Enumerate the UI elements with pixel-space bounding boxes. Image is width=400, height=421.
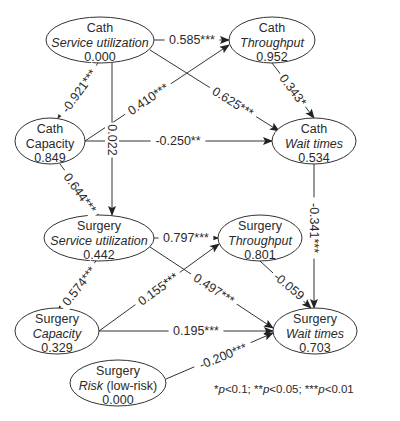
node-group: Cath <box>259 21 285 35</box>
node-group: Surgery <box>77 219 122 233</box>
svg-text:0.585***: 0.585*** <box>169 33 215 47</box>
node-surg-wait: SurgeryWait times0.703 <box>273 308 357 355</box>
node-group: Cath <box>37 122 63 136</box>
edge-label: 0.022 <box>105 123 119 158</box>
edge-label: 0.410*** <box>121 78 174 120</box>
svg-text:0.625***: 0.625*** <box>210 84 256 120</box>
node-cath-util: CathService utilization0.000 <box>46 17 154 64</box>
svg-text:0.797***: 0.797*** <box>163 231 209 245</box>
node-group: Surgery <box>96 364 141 378</box>
node-group: Surgery <box>293 312 338 326</box>
node-name: Wait times <box>286 327 344 341</box>
node-surg-risk: SurgeryRisk (low-risk)0.000 <box>70 360 166 407</box>
svg-text:-0.341***: -0.341*** <box>307 203 321 253</box>
svg-text:-0.200***: -0.200*** <box>197 340 249 372</box>
node-name: Throughput <box>228 234 292 248</box>
node-value: 0.952 <box>256 50 287 64</box>
edge-label: 0.644*** <box>58 167 102 220</box>
svg-text:-0.059: -0.059 <box>271 269 307 303</box>
node-value: 0.703 <box>299 341 330 355</box>
svg-text:-0.250**: -0.250** <box>155 134 200 148</box>
node-value: 0.329 <box>41 341 72 355</box>
node-value: 0.000 <box>84 50 115 64</box>
node-name: Capacity <box>33 327 82 341</box>
node-surg-cap: SurgeryCapacity0.329 <box>15 308 99 355</box>
edge-label: 0.797*** <box>159 231 214 245</box>
node-group: Surgery <box>238 219 283 233</box>
node-cath-cap: CathCapacity0.849 <box>15 118 85 165</box>
node-name: Service utilization <box>50 234 147 248</box>
node-group: Surgery <box>35 312 80 326</box>
svg-text:0.343*: 0.343* <box>276 72 309 109</box>
edge-label: 0.195*** <box>169 324 224 338</box>
edge-label: -0.250** <box>151 134 206 148</box>
svg-text:0.574***: 0.574*** <box>60 264 99 309</box>
node-name: Capacity <box>26 137 75 151</box>
svg-text:0.022: 0.022 <box>105 124 119 155</box>
node-value: 0.534 <box>298 151 329 165</box>
node-group: Cath <box>87 21 113 35</box>
node-name: Service utilization <box>51 36 148 50</box>
nodes-layer: CathService utilization0.000CathThroughp… <box>15 17 357 407</box>
svg-text:0.644***: 0.644*** <box>61 171 99 216</box>
node-cath-thru: CathThroughput0.952 <box>229 17 315 64</box>
node-value: 0.442 <box>83 248 114 262</box>
edge-label: 0.574*** <box>57 260 102 312</box>
edge-label: 0.497*** <box>187 268 241 310</box>
svg-text:0.195***: 0.195*** <box>173 324 219 338</box>
node-name: Wait times <box>285 137 343 151</box>
edge-label: -0.059 <box>268 267 309 305</box>
edge-label: 0.343* <box>275 69 311 111</box>
node-value: 0.801 <box>244 248 275 262</box>
svg-text:0.155***: 0.155*** <box>136 270 181 308</box>
node-group: Cath <box>301 122 327 136</box>
node-name: Risk (low-risk) <box>79 379 157 393</box>
node-value: 0.000 <box>102 393 133 407</box>
path-diagram: CathService utilization0.000CathThroughp… <box>0 0 400 421</box>
edge-label: -0.341*** <box>307 197 321 258</box>
edge-label: 0.585*** <box>165 33 220 47</box>
svg-text:0.410***: 0.410*** <box>125 81 171 118</box>
edge-label: -0.200*** <box>192 338 254 374</box>
svg-text:0.497***: 0.497*** <box>191 271 237 308</box>
node-surg-thru: SurgeryThroughput0.801 <box>218 215 302 262</box>
node-value: 0.849 <box>34 151 65 165</box>
node-cath-wait: CathWait times0.534 <box>272 118 356 165</box>
edge-label: 0.625*** <box>206 82 260 123</box>
significance-footnote: *p<0.1; **p<0.05; ***p<0.01 <box>214 383 354 395</box>
node-name: Throughput <box>240 36 304 50</box>
edge-label: 0.155*** <box>132 267 185 311</box>
svg-text:-0.921***: -0.921*** <box>59 67 100 116</box>
edge-label: -0.921*** <box>55 62 103 120</box>
node-surg-util: SurgeryService utilization0.442 <box>44 215 154 262</box>
